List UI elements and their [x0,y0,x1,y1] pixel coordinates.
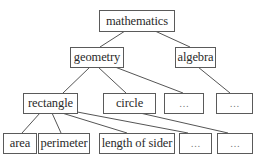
edge-geometry-rectangle [63,67,90,93]
node-area: area [3,133,37,154]
node-perimeter: perimeter [38,133,90,154]
node-length-of-sider: length of sider [99,133,175,154]
node-geometry: geometry [70,47,124,68]
node-algebra: algebra [175,47,216,68]
edge-rectangle-length-of-sider [62,113,127,133]
edge-rectangle-perimeter [52,113,61,133]
tree-diagram: mathematics geometry algebra rectangle c… [0,0,262,166]
edge-geometry-circle [98,67,126,93]
edge-mathematics-geometry [100,31,125,47]
edge-mathematics-algebra [155,31,190,47]
node-rectangle-more: … [179,133,212,154]
node-mathematics: mathematics [99,10,175,32]
edge-rectangle-area [22,113,40,133]
node-circle-more: … [217,133,253,154]
edge-geometry-more [115,67,183,93]
node-geometry-more: … [164,93,204,114]
node-rectangle: rectangle [23,93,78,114]
node-algebra-more: … [216,93,253,114]
node-circle: circle [103,93,156,114]
edge-algebra-more [198,67,230,93]
edge-rectangle-more [72,111,188,133]
edge-circle-more [140,113,228,133]
